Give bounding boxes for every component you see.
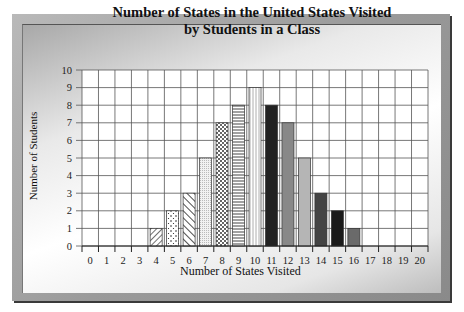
bar-14	[315, 193, 327, 246]
y-tick-label: 10	[62, 65, 73, 76]
bar-6	[183, 193, 195, 246]
x-tick-label: 13	[299, 255, 310, 266]
x-tick-label: 1	[104, 255, 109, 266]
bar-7	[200, 158, 212, 246]
y-tick-label: 9	[67, 82, 72, 93]
bar-11	[265, 105, 277, 246]
x-tick-label: 18	[382, 255, 393, 266]
y-tick-label: 5	[67, 153, 72, 164]
x-tick-label: 4	[154, 255, 160, 266]
bar-4	[150, 228, 162, 246]
bar-15	[331, 211, 343, 246]
x-tick-label: 5	[170, 255, 175, 266]
y-tick-label: 8	[67, 100, 72, 111]
y-axis-label: Number of Students	[27, 101, 39, 211]
x-tick-label: 16	[349, 255, 360, 266]
bar-10	[249, 88, 261, 246]
x-tick-label: 17	[365, 255, 376, 266]
x-tick-label: 20	[415, 255, 426, 266]
bar-16	[348, 228, 360, 246]
x-tick-label: 3	[137, 255, 142, 266]
y-tick-label: 3	[67, 188, 72, 199]
bar-8	[216, 123, 228, 246]
x-tick-label: 19	[398, 255, 409, 266]
x-axis-label: Number of States Visited	[180, 264, 301, 279]
y-tick-label: 1	[67, 223, 72, 234]
bar-9	[233, 105, 245, 246]
x-tick-label: 0	[88, 255, 93, 266]
bar-13	[298, 158, 310, 246]
y-tick-label: 2	[67, 205, 72, 216]
bar-12	[282, 123, 294, 246]
x-tick-label: 2	[121, 255, 126, 266]
bar-5	[167, 211, 179, 246]
x-tick-label: 14	[316, 255, 327, 266]
y-tick-label: 4	[67, 170, 73, 181]
y-tick-label: 0	[67, 241, 72, 252]
y-tick-label: 7	[67, 117, 72, 128]
y-tick-label: 6	[67, 135, 72, 146]
x-tick-label: 15	[332, 255, 343, 266]
